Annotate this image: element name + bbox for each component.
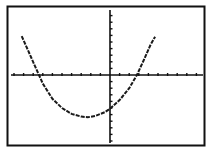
screen-frame xyxy=(8,7,205,146)
calculator-graph-screen xyxy=(0,0,207,156)
